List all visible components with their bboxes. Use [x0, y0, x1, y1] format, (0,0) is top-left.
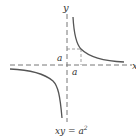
y-axis-label: y [62, 2, 69, 13]
hyperbola-diagram: y x a a xy = a2 [0, 0, 136, 139]
x-axis-label: x [132, 60, 136, 71]
equation-main: xy = a [55, 126, 84, 136]
equation-exponent: 2 [83, 124, 88, 131]
a-label-vertical: a [57, 53, 62, 63]
hyperbola-branch-q3 [10, 69, 62, 118]
a-label-horizontal: a [72, 67, 77, 77]
equation-caption: xy = a2 [55, 124, 88, 136]
